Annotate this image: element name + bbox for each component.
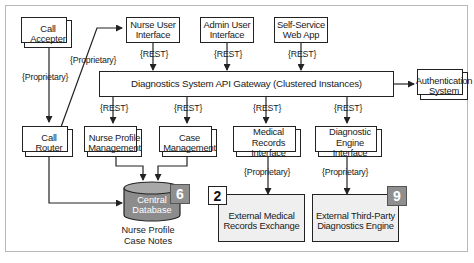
external-medical-badge: 2 <box>208 186 227 205</box>
call-router-node: CallRouter <box>25 129 73 157</box>
node-label: Diagnostic <box>329 126 371 137</box>
edge-label-gw-medical: {REST} <box>253 103 281 113</box>
node-label: Management <box>163 142 216 153</box>
node-label: Router <box>36 142 63 153</box>
nurse-profile-management-node: Nurse ProfileManagement <box>87 129 142 157</box>
node-label: External Medical <box>228 210 294 221</box>
nurse-user-interface-node: Nurse UserInterface <box>126 17 180 43</box>
node-label: System <box>429 85 459 96</box>
edge-label-gw-nurse-profile: {REST} <box>100 103 128 113</box>
diagnostic-engine-interface-node: DiagnosticEngine Interface <box>318 129 382 157</box>
node-label: Call <box>41 132 56 143</box>
case-management-node: CaseManagement <box>162 129 217 157</box>
caption-line: Case Notes <box>124 236 172 246</box>
edge-label-router-nurse-ui: {Proprietary} <box>70 55 116 65</box>
authentication-system-node: AuthenticationSystem <box>420 72 468 100</box>
node-label: Accepter <box>30 33 65 44</box>
node-label: Engine Interface <box>333 137 368 159</box>
node-label: Authentication <box>416 75 473 86</box>
node-label: Management <box>88 142 141 153</box>
node-label: Records Exchange <box>223 220 299 231</box>
central-database-badge: 6 <box>170 184 190 204</box>
node-label: Central <box>137 195 167 205</box>
node-label: Web App <box>283 29 319 40</box>
node-label: Interface <box>136 29 171 40</box>
node-label: Interface <box>210 29 245 40</box>
edge-label-gw-case: {REST} <box>174 103 202 113</box>
node-label: Nurse Profile <box>89 132 141 143</box>
node-label: Nurse User <box>130 19 175 30</box>
edge-label-self-service-gateway: {REST} <box>288 49 316 59</box>
node-label: Admin User <box>204 19 251 30</box>
edge-label-admin-ui-gateway: {REST} <box>214 49 242 59</box>
node-label: Database <box>132 205 171 215</box>
node-label: Interface <box>251 147 286 158</box>
api-gateway-node: Diagnostics System API Gateway (Clustere… <box>99 71 394 97</box>
node-label: External Third-Party <box>316 210 395 221</box>
edge-label-diag-ext: {Proprietary} <box>322 167 368 177</box>
edge-label-gw-diag: {REST} <box>334 103 362 113</box>
external-diagnostics-badge: 9 <box>387 186 407 206</box>
central-database-caption: Nurse ProfileCase Notes <box>110 225 186 246</box>
node-label: Diagnostics Engine <box>317 220 394 231</box>
node-label: Case <box>179 132 200 143</box>
admin-user-interface-node: Admin UserInterface <box>200 17 254 43</box>
external-medical-records-exchange-node: External MedicalRecords Exchange <box>218 194 305 242</box>
external-diagnostics-engine-node: External Third-PartyDiagnostics Engine <box>312 194 399 242</box>
node-label: Call <box>40 23 55 34</box>
medical-records-interface-node: Medical RecordsInterface <box>236 129 301 157</box>
node-label: Diagnostics System API Gateway (Clustere… <box>131 79 362 90</box>
edge-label-accepter-router: {Proprietary} <box>22 72 68 82</box>
self-service-web-app-node: Self-ServiceWeb App <box>274 17 328 43</box>
edge-label-medical-ext: {Proprietary} <box>244 167 290 177</box>
node-label: Medical Records <box>252 126 286 148</box>
caption-line: Nurse Profile <box>121 225 174 235</box>
edge-label-nurse-ui-gateway: {REST} <box>140 49 168 59</box>
call-accepter-node: CallAccepter <box>24 20 72 48</box>
node-label: Self-Service <box>277 19 325 30</box>
